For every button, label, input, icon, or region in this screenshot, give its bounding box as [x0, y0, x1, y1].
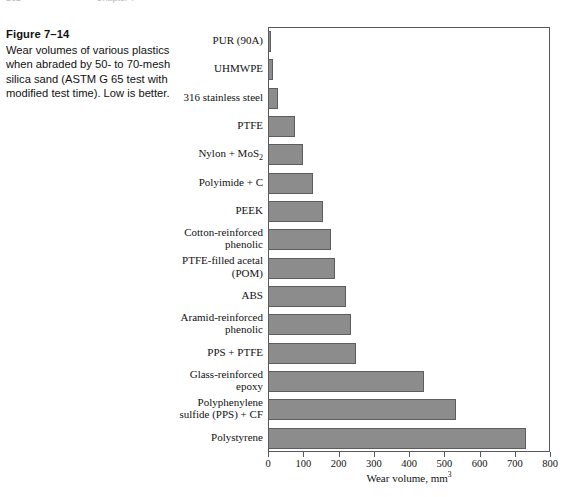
- bar-row: [268, 197, 550, 225]
- category-label: PTFE: [63, 119, 263, 132]
- category-label: Aramid-reinforcedphenolic: [63, 311, 263, 336]
- bar-row: [268, 310, 550, 338]
- x-tick-label: 100: [283, 458, 323, 469]
- x-tick-label: 400: [389, 458, 429, 469]
- bar-row: [268, 112, 550, 140]
- bar: [268, 258, 335, 279]
- x-tick-label: 500: [424, 458, 464, 469]
- bar: [268, 314, 351, 335]
- category-label: Glass-reinforcedepoxy: [63, 368, 263, 393]
- x-axis-title: Wear volume, mm3: [268, 470, 550, 484]
- bar-row: [268, 169, 550, 197]
- x-tick: [515, 452, 516, 457]
- bar: [268, 173, 313, 194]
- bar: [268, 31, 271, 52]
- x-tick: [303, 452, 304, 457]
- bar: [268, 59, 273, 80]
- category-label: Cotton-reinforcedphenolic: [63, 226, 263, 251]
- x-tick: [550, 452, 551, 457]
- category-label: PUR (90A): [63, 34, 263, 47]
- category-label: PTFE-filled acetal(POM): [63, 254, 263, 279]
- bar-row: [268, 424, 550, 452]
- bar: [268, 229, 331, 250]
- wear-volume-bar-chart: PUR (90A)UHMWPE316 stainless steelPTFENy…: [0, 0, 576, 497]
- bar-row: [268, 254, 550, 282]
- x-tick: [444, 452, 445, 457]
- bar-row: [268, 27, 550, 55]
- bar-row: [268, 140, 550, 168]
- bar: [268, 286, 346, 307]
- category-label: Polyimide + C: [63, 176, 263, 189]
- category-label: Nylon + MoS2: [63, 147, 263, 165]
- bar-row: [268, 55, 550, 83]
- x-tick-label: 800: [530, 458, 570, 469]
- x-tick: [268, 452, 269, 457]
- bar-row: [268, 339, 550, 367]
- bar: [268, 201, 323, 222]
- category-label: Polystyrene: [63, 431, 263, 444]
- category-label: Polyphenylenesulfide (PPS) + CF: [63, 396, 263, 421]
- x-tick-label: 300: [354, 458, 394, 469]
- category-label: 316 stainless steel: [63, 91, 263, 104]
- x-tick: [409, 452, 410, 457]
- x-tick-label: 600: [460, 458, 500, 469]
- bar-row: [268, 84, 550, 112]
- bar: [268, 343, 356, 364]
- bar-row: [268, 367, 550, 395]
- category-label: PPS + PTFE: [63, 346, 263, 359]
- x-tick: [374, 452, 375, 457]
- bar: [268, 371, 424, 392]
- category-label: ABS: [63, 289, 263, 302]
- bar: [268, 144, 303, 165]
- x-tick-label: 200: [319, 458, 359, 469]
- x-tick: [480, 452, 481, 457]
- x-tick-label: 700: [495, 458, 535, 469]
- x-tick: [339, 452, 340, 457]
- category-label: PEEK: [63, 204, 263, 217]
- bar-row: [268, 395, 550, 423]
- bar-row: [268, 225, 550, 253]
- bar: [268, 399, 456, 420]
- bar: [268, 116, 295, 137]
- x-tick-label: 0: [248, 458, 288, 469]
- bar: [268, 88, 278, 109]
- bar-row: [268, 282, 550, 310]
- category-label: UHMWPE: [63, 62, 263, 75]
- bar: [268, 428, 526, 449]
